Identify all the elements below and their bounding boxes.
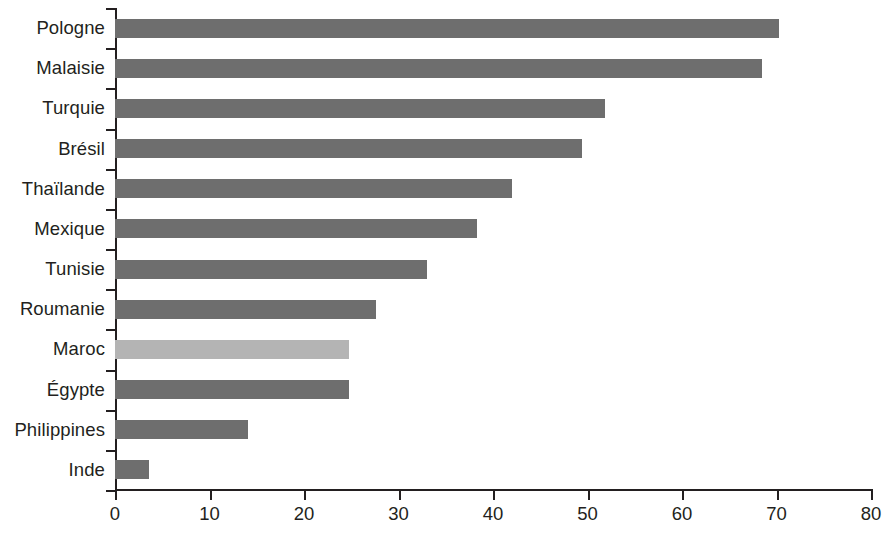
bar-row (115, 48, 871, 88)
x-axis-label-4: 40 (463, 503, 523, 525)
x-axis-label-6: 60 (652, 503, 712, 525)
x-axis-tick (304, 489, 306, 500)
y-axis-label-2: Turquie (1, 98, 105, 117)
x-axis-label-2: 20 (274, 503, 334, 525)
bar-row (115, 129, 871, 169)
y-axis-label-9: Égypte (1, 380, 105, 399)
x-axis-label-5: 50 (558, 503, 618, 525)
bar-turquie (115, 99, 605, 118)
y-axis-label-5: Mexique (1, 219, 105, 238)
y-axis-label-4: Thaïlande (1, 179, 105, 198)
y-axis-label-8: Maroc (1, 339, 105, 358)
bar-pologne (115, 19, 779, 38)
bar-chart: Pologne Malaisie Turquie Brésil Thaïland… (0, 0, 882, 533)
x-axis-label-3: 30 (369, 503, 429, 525)
y-axis-label-0: Pologne (1, 18, 105, 37)
bar-row (115, 450, 871, 490)
x-axis-tick (682, 489, 684, 500)
x-axis-tick (493, 489, 495, 500)
bar-row (115, 209, 871, 249)
bar-mexique (115, 219, 477, 238)
bar-philippines (115, 420, 248, 439)
y-axis-label-1: Malaisie (1, 58, 105, 77)
bar-inde (115, 460, 149, 479)
y-axis-label-11: Inde (1, 460, 105, 479)
x-axis-tick (588, 489, 590, 500)
bar-row (115, 8, 871, 48)
x-axis-label-7: 70 (747, 503, 807, 525)
x-axis-label-8: 80 (841, 503, 882, 525)
bar-roumanie (115, 300, 376, 319)
x-axis-label-1: 10 (180, 503, 240, 525)
bar-row (115, 88, 871, 128)
plot-area (115, 8, 871, 490)
bar-thailande (115, 179, 512, 198)
bar-row (115, 249, 871, 289)
x-axis-tick (871, 489, 873, 500)
bar-row (115, 289, 871, 329)
y-axis-label-7: Roumanie (1, 299, 105, 318)
x-axis-tick (115, 489, 117, 500)
bar-egypte (115, 380, 349, 399)
y-axis-label-10: Philippines (1, 420, 105, 439)
bar-row (115, 410, 871, 450)
y-axis-category-labels: Pologne Malaisie Turquie Brésil Thaïland… (0, 8, 105, 490)
x-axis-tick (777, 489, 779, 500)
bar-row (115, 169, 871, 209)
bar-bresil (115, 139, 582, 158)
bar-tunisie (115, 260, 427, 279)
bar-row (115, 370, 871, 410)
x-axis-label-0: 0 (85, 503, 145, 525)
y-axis-label-6: Tunisie (1, 259, 105, 278)
bar-maroc (115, 340, 349, 359)
y-axis-label-3: Brésil (1, 139, 105, 158)
x-axis-tick (399, 489, 401, 500)
x-axis-tick (210, 489, 212, 500)
bar-row (115, 329, 871, 369)
bar-malaisie (115, 59, 762, 78)
